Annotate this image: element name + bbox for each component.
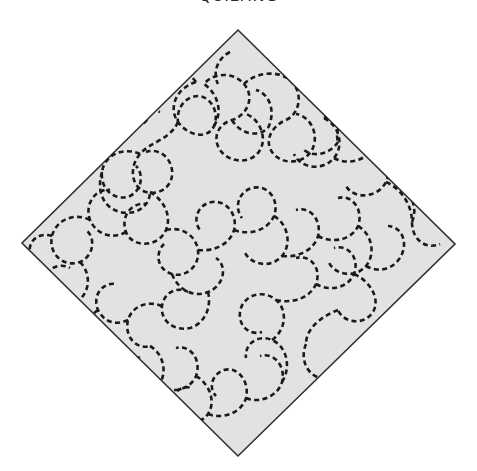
quilt-diagram-canvas — [0, 0, 477, 471]
stitch-lobe — [112, 82, 151, 126]
quilting-figure: QUILTING — [0, 0, 477, 471]
stitch-lobe — [44, 302, 85, 344]
stitch-lobe — [88, 120, 126, 130]
stitch-lobe — [42, 282, 60, 316]
diamond-quilt-block — [22, 30, 455, 456]
stitch-lobe — [118, 68, 154, 82]
stitch-lobe — [20, 252, 30, 276]
